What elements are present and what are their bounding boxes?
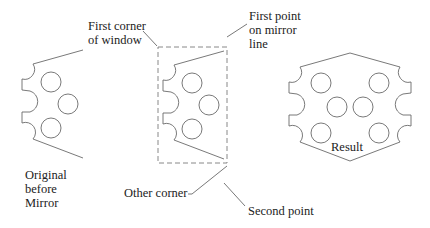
mirror-diagram: First corner of window First point on mi…: [0, 0, 430, 228]
label-result: Result: [331, 140, 363, 154]
leader-second-point: [224, 183, 245, 206]
original-part: [22, 50, 83, 158]
selection-window: [158, 47, 227, 163]
selected-part: [163, 51, 224, 159]
label-original: Original before Mirror: [25, 168, 67, 210]
label-second-point: Second point: [248, 204, 314, 218]
label-first-point: First point on mirror line: [249, 9, 301, 51]
leader-first-point: [227, 24, 247, 37]
leader-other-corner: [188, 166, 227, 194]
label-first-corner: First corner of window: [88, 19, 146, 47]
label-other-corner: Other corner: [124, 186, 188, 200]
